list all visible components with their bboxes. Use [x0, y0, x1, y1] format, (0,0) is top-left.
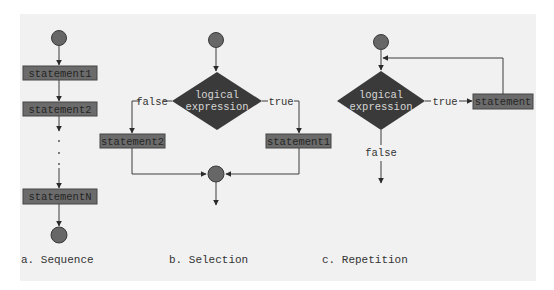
ellipsis-dots	[58, 140, 60, 165]
control-structures-diagram: statement1 statement2 statementN logical…	[0, 0, 554, 290]
statement-label: statement2	[28, 104, 91, 116]
selection-false-statement: statement2	[100, 134, 165, 148]
statement-label: statement	[475, 96, 532, 108]
repetition-flowchart: logical expression true statement false	[337, 35, 533, 184]
condition-text: logical	[359, 89, 403, 101]
selection-flowchart: logical expression false statement2 true…	[100, 33, 331, 206]
selection-true-statement: statement1	[266, 134, 331, 148]
decision-diamond: logical expression	[172, 72, 262, 130]
false-label: false	[365, 147, 397, 159]
condition-text: expression	[349, 101, 412, 113]
start-node-icon	[374, 35, 389, 50]
sequence-statement-1: statement1	[23, 66, 97, 80]
sequence-statement-n: statementN	[23, 189, 97, 204]
start-node-icon	[209, 33, 224, 48]
true-label: true	[268, 96, 293, 108]
statement-label: statement2	[101, 136, 164, 148]
loop-body-statement: statement	[473, 94, 533, 109]
false-label: false	[136, 96, 168, 108]
sequence-statement-2: statement2	[23, 102, 97, 116]
statement-label: statement1	[267, 136, 330, 148]
junction-node-icon	[208, 166, 224, 182]
condition-text: logical	[195, 89, 239, 101]
repetition-caption: c. Repetition	[322, 254, 408, 266]
sequence-flowchart: statement1 statement2 statementN	[23, 31, 97, 244]
condition-text: expression	[185, 101, 248, 113]
statement-label: statementN	[28, 191, 91, 203]
true-label: true	[432, 96, 457, 108]
start-node-icon	[52, 31, 67, 46]
statement-label: statement1	[28, 68, 91, 80]
loop-decision-diamond: logical expression	[337, 71, 425, 130]
selection-caption: b. Selection	[169, 254, 248, 266]
sequence-caption: a. Sequence	[21, 254, 94, 266]
end-node-icon	[51, 227, 67, 243]
